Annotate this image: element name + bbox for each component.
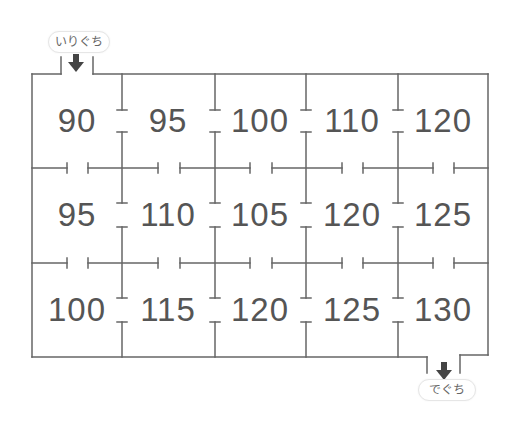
maze-cell-r2-c5[interactable]: 125: [397, 195, 489, 235]
arrow-down-icon: [436, 362, 452, 380]
maze-cell-r1-c1[interactable]: 90: [31, 101, 123, 141]
entrance-label: いりぐち: [48, 31, 110, 53]
maze-cell-r3-c2[interactable]: 115: [122, 290, 214, 330]
arrow-down-icon: [68, 54, 84, 72]
exit-label: でぐち: [418, 379, 476, 401]
maze-cell-r2-c3[interactable]: 105: [214, 195, 306, 235]
maze-cell-r1-c3[interactable]: 100: [214, 101, 306, 141]
maze-cell-r3-c5[interactable]: 130: [397, 290, 489, 330]
maze-cell-r3-c3[interactable]: 120: [214, 290, 306, 330]
maze-cell-r2-c1[interactable]: 95: [31, 195, 123, 235]
maze-cell-r3-c4[interactable]: 125: [306, 290, 398, 330]
maze-cell-r1-c5[interactable]: 120: [397, 101, 489, 141]
maze-cell-r1-c2[interactable]: 95: [122, 101, 214, 141]
maze-cell-r2-c4[interactable]: 120: [306, 195, 398, 235]
maze-cell-r3-c1[interactable]: 100: [31, 290, 123, 330]
maze-cell-r2-c2[interactable]: 110: [122, 195, 214, 235]
maze-cell-r1-c4[interactable]: 110: [306, 101, 398, 141]
